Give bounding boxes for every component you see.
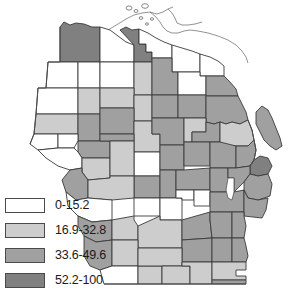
county-outagamie[interactable] [210, 142, 236, 168]
county-sawyer[interactable] [100, 62, 134, 88]
county-portage[interactable] [160, 145, 184, 170]
choropleth-figure: 0-15.2 16.9-32.8 33.6-49.6 52.2-100 [0, 0, 296, 294]
legend-swatch-1 [5, 223, 45, 238]
county-rusk[interactable] [100, 88, 134, 108]
county-marinette[interactable] [206, 96, 248, 124]
legend-row-3[interactable]: 52.2-100 [5, 271, 103, 289]
county-jackson[interactable] [110, 141, 134, 176]
county-greenlake[interactable] [194, 190, 210, 206]
county-langlade[interactable] [178, 95, 206, 118]
county-pierce[interactable] [30, 134, 58, 150]
county-door[interactable] [256, 106, 282, 150]
map-legend: 0-15.2 16.9-32.8 33.6-49.6 52.2-100 [5, 196, 133, 288]
legend-label-3: 52.2-100 [55, 274, 103, 287]
county-rock[interactable] [138, 248, 182, 266]
county-sauk[interactable] [134, 198, 160, 216]
county-burnett[interactable] [46, 62, 78, 88]
county-wood[interactable] [134, 152, 160, 176]
island-small-d [150, 18, 153, 21]
island-small-b [142, 4, 149, 9]
county-washington[interactable] [210, 212, 232, 238]
county-trempealeau[interactable] [82, 158, 110, 180]
county-vilas[interactable] [172, 45, 200, 72]
county-oconto[interactable] [220, 120, 254, 146]
county-ozaukee[interactable] [232, 212, 246, 238]
county-marinette-n[interactable] [206, 76, 238, 96]
county-waushara[interactable] [176, 168, 210, 190]
county-juneau[interactable] [134, 176, 160, 198]
legend-label-1: 16.9-32.8 [55, 224, 106, 237]
island-madeline [126, 6, 132, 10]
county-stcroix[interactable] [34, 114, 78, 134]
legend-label-0: 0-15.2 [55, 199, 89, 212]
legend-row-2[interactable]: 33.6-49.6 [5, 246, 106, 264]
county-florence[interactable] [200, 54, 224, 76]
island-small-c [139, 17, 143, 20]
county-polk[interactable] [36, 88, 78, 114]
island-small-e [146, 23, 149, 25]
legend-swatch-2 [5, 248, 45, 263]
county-waupaca[interactable] [184, 142, 210, 166]
county-dunn[interactable] [78, 114, 100, 141]
county-price[interactable] [134, 62, 152, 95]
county-rock-s[interactable] [162, 266, 190, 284]
legend-swatch-0 [5, 198, 45, 213]
county-columbia[interactable] [160, 198, 182, 220]
island-small-a [134, 10, 138, 13]
county-manitowoc[interactable] [244, 174, 272, 200]
county-dane[interactable] [138, 216, 182, 248]
county-eauclaire[interactable] [78, 141, 110, 158]
legend-label-2: 33.6-49.6 [55, 249, 106, 262]
county-douglas[interactable] [60, 22, 100, 62]
county-jefferson[interactable] [182, 238, 212, 262]
county-milwaukee[interactable] [232, 238, 248, 262]
county-chippewa[interactable] [100, 108, 134, 134]
county-chippewa-s[interactable] [100, 134, 134, 141]
county-buffalo[interactable] [38, 148, 82, 170]
county-lincoln[interactable] [152, 95, 178, 118]
county-waukesha[interactable] [212, 238, 232, 262]
county-green[interactable] [138, 266, 162, 284]
county-barron[interactable] [78, 88, 100, 114]
county-dodge[interactable] [182, 212, 212, 240]
legend-swatch-3 [5, 273, 45, 288]
county-taylor[interactable] [134, 95, 152, 121]
county-pepin[interactable] [58, 134, 78, 148]
county-kenosha[interactable] [212, 280, 246, 284]
legend-row-1[interactable]: 16.9-32.8 [5, 221, 106, 239]
county-adams[interactable] [160, 170, 176, 198]
county-washburn[interactable] [78, 62, 100, 88]
county-racine[interactable] [212, 262, 246, 280]
legend-row-0[interactable]: 0-15.2 [5, 196, 89, 214]
